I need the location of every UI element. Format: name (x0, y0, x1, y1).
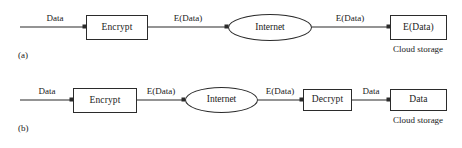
node-encrypt-a-label: Encrypt (102, 23, 133, 33)
diagram-panel-b: Encrypt Internet Decrypt Data Cloud stor… (0, 74, 462, 148)
edge-label-edata-2-a: E(Data) (336, 14, 364, 23)
node-storage-b-label: Data (409, 95, 427, 105)
node-internet-a-label: Internet (255, 23, 285, 33)
panel-label-a: (a) (18, 51, 28, 60)
node-internet-b-label: Internet (207, 95, 237, 105)
panel-label-b: (b) (18, 124, 29, 133)
diagram-panel-a: Encrypt Internet E(Data) Cloud storage D… (0, 0, 462, 74)
edge-label-edata-1-a: E(Data) (174, 14, 202, 23)
node-storage-b[interactable]: Data (390, 89, 447, 111)
node-storage-a-label: E(Data) (403, 23, 434, 33)
edge-label-data-a: Data (47, 14, 64, 23)
edge-label-edata-2-b: E(Data) (266, 87, 294, 96)
node-internet-b[interactable]: Internet (185, 87, 258, 113)
node-encrypt-a[interactable]: Encrypt (86, 15, 148, 40)
node-encrypt-b[interactable]: Encrypt (73, 88, 137, 113)
caption-cloud-storage-b: Cloud storage (393, 116, 443, 125)
node-internet-a[interactable]: Internet (228, 14, 312, 41)
edge-label-data-b: Data (39, 87, 56, 96)
edge-label-data-2-b: Data (363, 87, 380, 96)
node-decrypt-b-label: Decrypt (312, 95, 343, 105)
node-decrypt-b[interactable]: Decrypt (303, 89, 352, 111)
caption-cloud-storage-a: Cloud storage (393, 45, 443, 54)
node-encrypt-b-label: Encrypt (90, 96, 121, 106)
node-storage-a[interactable]: E(Data) (390, 15, 447, 40)
edge-label-edata-1-b: E(Data) (147, 87, 175, 96)
